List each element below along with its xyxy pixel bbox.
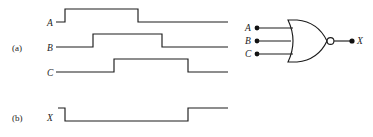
gate-output-label-x: X (356, 36, 364, 46)
part-a-group: (a) A B C (12, 9, 228, 78)
part-b-group: (b) X (12, 108, 228, 123)
waveform-b-group: B (47, 34, 228, 53)
waveform-a-group: A (46, 9, 228, 28)
gate-input-label-c: C (245, 49, 252, 59)
waveform-trace-x (58, 108, 228, 121)
waveform-trace-c (56, 59, 228, 72)
waveform-c-group: C (47, 59, 228, 78)
waveform-trace-a (56, 9, 228, 22)
gate-output-terminal-x (349, 38, 354, 43)
waveform-trace-b (56, 34, 228, 47)
waveform-label-b: B (47, 43, 53, 53)
part-a-label: (a) (12, 43, 22, 53)
part-b-label: (b) (12, 113, 23, 123)
nor-gate-schematic: A B C X (244, 20, 364, 62)
waveform-label-c: C (47, 68, 54, 78)
gate-inversion-bubble (327, 38, 334, 45)
nor-gate-body (288, 20, 327, 62)
gate-input-label-a: A (244, 23, 251, 33)
figure-root: (a) A B C (b) X (0, 0, 373, 137)
gate-input-label-b: B (245, 36, 251, 46)
waveform-label-x: X (46, 113, 54, 123)
waveform-x-group: X (46, 108, 228, 123)
logic-figure-canvas: (a) A B C (b) X (0, 0, 373, 137)
waveform-label-a: A (46, 18, 53, 28)
